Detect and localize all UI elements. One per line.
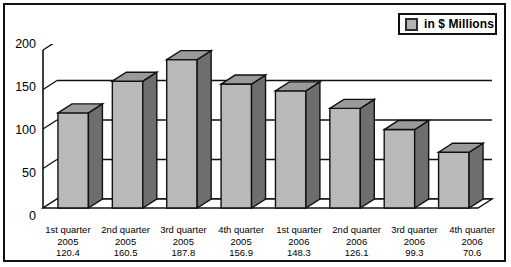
x-label-group: 3rd quarter 2006 99.3 (386, 224, 444, 264)
x-label-value: 187.8 (155, 247, 213, 259)
x-label-year: 2005 (97, 236, 155, 248)
x-label-value: 148.3 (270, 247, 328, 259)
y-tick-50: 50 (2, 167, 36, 179)
chart-screenshot: in $ Millions 200 150 100 50 0 1st quart… (0, 0, 511, 267)
bar-chart-svg (39, 44, 498, 220)
x-label-value: 99.3 (386, 247, 444, 259)
x-label-quarter: 3rd quarter (386, 224, 444, 236)
plot-area (39, 44, 498, 220)
x-label-group: 3rd quarter 2005 187.8 (155, 224, 213, 264)
x-label-quarter: 1st quarter (270, 224, 328, 236)
x-label-year: 2006 (270, 236, 328, 248)
x-label-quarter: 4th quarter (443, 224, 501, 236)
x-label-value: 156.9 (212, 247, 270, 259)
x-label-group: 2nd quarter 2006 126.1 (328, 224, 386, 264)
x-label-value: 126.1 (328, 247, 386, 259)
x-label-year: 2005 (39, 236, 97, 248)
y-tick-100: 100 (2, 124, 36, 136)
y-tick-150: 150 (2, 81, 36, 93)
x-label-year: 2006 (386, 236, 444, 248)
x-label-year: 2006 (328, 236, 386, 248)
x-label-year: 2005 (212, 236, 270, 248)
x-label-value: 120.4 (39, 247, 97, 259)
x-label-value: 160.5 (97, 247, 155, 259)
y-tick-0: 0 (2, 210, 36, 222)
x-label-quarter: 1st quarter (39, 224, 97, 236)
x-label-quarter: 4th quarter (212, 224, 270, 236)
chart-legend: in $ Millions (398, 13, 497, 35)
x-label-year: 2006 (443, 236, 501, 248)
legend-square-icon (405, 18, 418, 31)
x-label-year: 2005 (155, 236, 213, 248)
x-label-value: 70.6 (443, 247, 501, 259)
x-axis-labels: 1st quarter 2005 120.4 2nd quarter 2005 … (39, 224, 501, 264)
x-label-quarter: 3rd quarter (155, 224, 213, 236)
x-label-quarter: 2nd quarter (97, 224, 155, 236)
x-label-quarter: 2nd quarter (328, 224, 386, 236)
y-axis: 200 150 100 50 0 (0, 44, 36, 220)
x-label-group: 1st quarter 2006 148.3 (270, 224, 328, 264)
y-tick-200: 200 (2, 38, 36, 50)
x-label-group: 1st quarter 2005 120.4 (39, 224, 97, 264)
x-label-group: 4th quarter 2005 156.9 (212, 224, 270, 264)
x-label-group: 2nd quarter 2005 160.5 (97, 224, 155, 264)
legend-label: in $ Millions (424, 17, 494, 31)
x-label-group: 4th quarter 2006 70.6 (443, 224, 501, 264)
